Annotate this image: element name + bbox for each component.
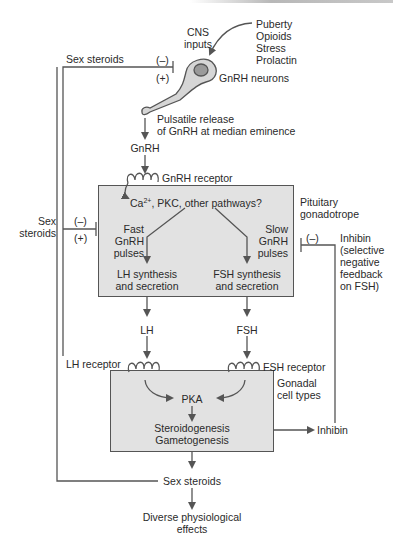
mid-feedback-neg: (–) (74, 215, 87, 227)
gnrh-hormone-label: GnRH (125, 142, 165, 154)
top-feedback-pos: (+) (156, 72, 169, 84)
inhibin-output-label: Inhibin (317, 424, 348, 436)
gonadal-cell-types-label: Gonadal cell types (277, 377, 321, 401)
lh-label: LH (132, 324, 162, 336)
gonad-outputs-label: Steroidogenesis Gametogenesis (142, 422, 242, 446)
gnrh-receptor-label: GnRH receptor (162, 172, 233, 184)
gnrh-receptor-icon (127, 173, 158, 183)
gnrh-neurons-label: GnRH neurons (219, 72, 289, 84)
pulsatile-release-label: Pulsatile release of GnRH at median emin… (157, 113, 295, 137)
fast-pulses-label: Fast GnRH pulses (100, 223, 144, 259)
inhibin-feedback-label: Inhibin (selective negative feedback on … (340, 232, 384, 292)
lh-receptor-icon (128, 362, 159, 372)
fsh-label: FSH (232, 324, 262, 336)
mid-feedback-pos: (+) (74, 232, 87, 244)
lh-receptor-label: LH receptor (66, 358, 121, 370)
fsh-receptor-label: FSH receptor (263, 361, 325, 373)
pathway-label: Ca2+, PKC, other pathways? (130, 197, 262, 209)
fsh-receptor-icon (228, 362, 259, 372)
top-feedback-neg: (–) (156, 54, 169, 66)
cns-inputs-label: CNS inputs (178, 26, 218, 50)
inhibin-feedback-neg: (–) (306, 232, 319, 244)
slow-pulses-label: Slow GnRH pulses (244, 223, 288, 259)
sex-steroids-mid-label: Sex steroids (10, 215, 56, 239)
pituitary-gonadotrope-label: Pituitary gonadotrope (300, 196, 359, 220)
physiological-effects-label: Diverse physiological effects (132, 511, 252, 535)
sex-steroids-bottom-label: Sex steroids (152, 475, 232, 487)
lh-output-label: LH synthesis and secretion (107, 268, 187, 292)
sex-steroids-top-label: Sex steroids (66, 53, 124, 65)
modulators-label: Puberty Opioids Stress Prolactin (256, 18, 297, 66)
diagram-connectors (0, 0, 393, 540)
pka-label: PKA (172, 393, 212, 405)
fsh-output-label: FSH synthesis and secretion (202, 268, 292, 292)
